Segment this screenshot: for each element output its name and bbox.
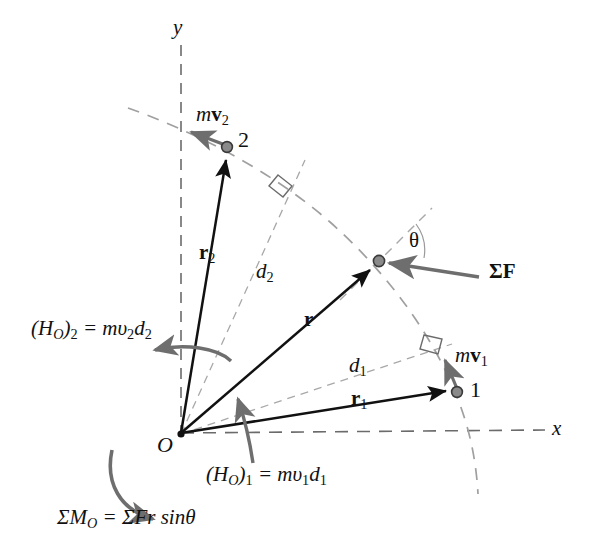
angular-momentum-figure: y x O 2 1 mv2 mv1 r2 r r1 d2 d1 θ ΣF (HO… — [0, 0, 594, 558]
r2-label: r2 — [199, 242, 215, 265]
d2-label: d2 — [256, 261, 274, 284]
sum-force-vector-arrow — [389, 263, 479, 277]
sum-force-label: ΣF — [489, 261, 516, 282]
r1-label: r1 — [351, 388, 367, 411]
r-extension-line — [340, 208, 432, 300]
right-angle-marker-d1 — [420, 335, 442, 354]
r-label: r — [304, 309, 313, 330]
theta-label: θ — [409, 230, 419, 251]
ho1-moment-arc-arrow — [238, 399, 253, 463]
x-axis-label: x — [552, 418, 561, 439]
ho2-equation-label: (HO)2 = mυ2d2 — [31, 318, 152, 341]
d1-label: d1 — [349, 355, 367, 378]
d2-construction-line — [181, 160, 305, 434]
mv1-label: mv1 — [455, 345, 488, 368]
y-axis-label: y — [173, 17, 182, 38]
point-2-label: 2 — [238, 129, 249, 151]
ho1-equation-label: (HO)1 = mυ1d1 — [206, 464, 327, 487]
particle-dot-2 — [222, 142, 233, 153]
r2-vector-arrow — [181, 160, 226, 433]
particle-dot-1 — [452, 387, 463, 398]
x-axis-line — [181, 430, 545, 433]
origin-dot — [177, 430, 184, 437]
sum-moment-equation-label: ΣMO = ΣFr sinθ — [57, 507, 196, 530]
point-1-label: 1 — [470, 379, 481, 401]
mv2-label: mv2 — [196, 104, 229, 127]
d1-construction-line — [181, 344, 452, 434]
origin-label: O — [157, 434, 173, 456]
particle-dot-r — [373, 255, 384, 266]
right-angle-marker-d2 — [269, 175, 292, 197]
